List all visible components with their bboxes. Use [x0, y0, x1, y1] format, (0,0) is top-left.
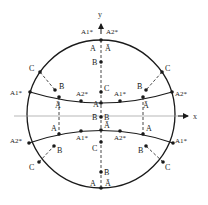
point-upper-arc-right-mid	[141, 95, 145, 99]
label-lower-arc-left-inner: A1*	[76, 134, 89, 142]
label-upper-arc-left-end: A1*	[10, 89, 23, 97]
label-center-bbar: B̄	[92, 113, 97, 122]
point-lower-arc-left-mid	[57, 132, 61, 136]
point-upper-arc-left-end	[28, 90, 32, 94]
label-lower-left-b: B	[57, 146, 62, 155]
x-axis-label: x	[193, 112, 197, 121]
lower-right-connector	[146, 146, 163, 162]
point-upper-left-c	[38, 70, 42, 74]
point-upper-right-c	[160, 70, 164, 74]
label-top-pole-abar: Ā	[105, 44, 111, 53]
point-lower-arc-right-mid	[141, 132, 145, 136]
label-lower-arc-right-mid: A	[146, 124, 152, 133]
point-center	[99, 115, 103, 119]
point-bottom-b	[99, 170, 103, 174]
point-upper-arc-left-mid	[57, 95, 61, 99]
point-top-c	[99, 90, 103, 94]
point-upper-right-b	[144, 88, 148, 92]
label-lower-right-b: B	[138, 146, 143, 155]
label-lower-arc-right-inner: A2*	[114, 134, 127, 142]
point-lower-left-b	[52, 144, 56, 148]
label-upper-arc-left-mid: Ā	[55, 101, 61, 110]
label-upper-left-c: C	[29, 64, 34, 73]
label-upper-right-c: C	[165, 64, 170, 73]
point-lower-arc-center	[99, 128, 103, 132]
label-upper-arc-center: A	[93, 100, 99, 109]
point-upper-left-b	[53, 88, 57, 92]
point-lower-right-b	[144, 144, 148, 148]
point-top-pole	[99, 38, 103, 42]
label-top-b: B	[92, 58, 97, 67]
label-lower-arc-left-end: A2*	[10, 137, 23, 145]
point-bottom-c	[99, 140, 103, 144]
label-upper-arc-left-inner: A2*	[76, 90, 89, 98]
point-lower-arc-left-inner	[79, 129, 83, 133]
label-lower-left-c: C	[29, 163, 34, 172]
label-top-a1: A1*	[81, 28, 94, 36]
label-upper-left-bbar: B̄	[59, 82, 64, 91]
upper-right-connector	[146, 72, 162, 90]
lower-left-connector	[39, 146, 54, 162]
phase-diagram: x y	[0, 0, 208, 205]
label-bottom-bbar: B̄	[104, 168, 109, 177]
point-upper-arc-right-end	[170, 90, 174, 94]
point-lower-arc-right-inner	[118, 129, 122, 133]
upper-left-connector	[40, 72, 55, 90]
point-lower-left-c	[37, 160, 41, 164]
label-upper-arc-right-inner: A1*	[114, 90, 127, 98]
label-lower-arc-left-mid: A	[51, 124, 57, 133]
label-bottom-pole-abar: Ā	[105, 179, 111, 188]
point-top-b	[99, 60, 103, 64]
label-lower-arc-right-end: A1*	[175, 137, 188, 145]
label-bottom-pole-a: A	[90, 179, 96, 188]
label-top-a2: A2*	[106, 28, 119, 36]
point-bottom-pole	[99, 186, 103, 190]
label-top-pole-a: A	[90, 44, 96, 53]
label-lower-arc-center: Ā	[104, 121, 110, 130]
y-axis-label: y	[98, 10, 102, 19]
label-bottom-c: C	[92, 144, 97, 153]
label-top-c: C	[104, 84, 109, 93]
point-upper-arc-right-inner	[118, 99, 122, 103]
point-lower-arc-left-end	[27, 141, 31, 145]
point-upper-arc-left-inner	[79, 99, 83, 103]
label-upper-arc-right-mid: Ā	[143, 101, 149, 110]
label-upper-right-bbar: B̄	[137, 82, 142, 91]
label-lower-right-c: C	[165, 163, 170, 172]
label-upper-arc-right-end: A2*	[175, 90, 188, 98]
point-upper-arc-center	[99, 101, 103, 105]
